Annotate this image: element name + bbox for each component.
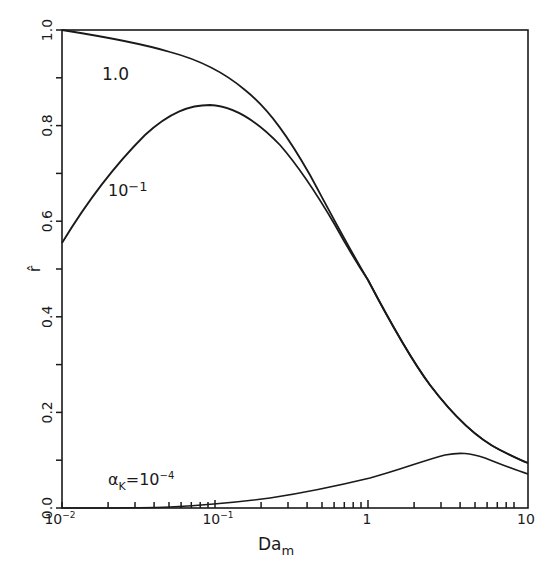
x-axis-ticks <box>62 500 514 508</box>
line-chart: 0.0 0.2 0.4 0.6 0.8 1.0 r̂ <box>0 0 552 570</box>
plot-frame <box>62 30 528 508</box>
y-tick-label: 0.8 <box>39 114 55 136</box>
y-tick-label: 1.0 <box>39 19 55 41</box>
x-tick-label: 10−2 <box>44 510 75 527</box>
y-axis-ticks <box>56 30 62 508</box>
y-axis-label: r̂ <box>26 265 44 272</box>
annotation-alpha-1e-4: αK=10−4 <box>108 470 174 493</box>
x-axis-label: Dam <box>258 534 294 558</box>
annotation-alpha-1: 1.0 <box>102 64 129 84</box>
annotation-alpha-0.1: 10−1 <box>108 179 148 200</box>
x-tick-label: 1 <box>363 511 372 527</box>
y-tick-label: 0.4 <box>39 306 55 328</box>
curve-alpha-0.1 <box>62 105 528 463</box>
x-axis-tick-labels: 10−2 10−1 1 10 <box>44 510 534 527</box>
y-tick-label: 0.6 <box>39 210 55 232</box>
x-tick-label: 10−1 <box>202 510 233 527</box>
y-tick-label: 0.2 <box>39 401 55 423</box>
curve-alpha-1 <box>62 30 528 463</box>
x-tick-label: 10 <box>517 511 535 527</box>
